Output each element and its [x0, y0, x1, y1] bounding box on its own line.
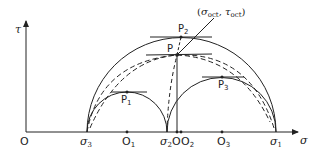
- diagram-canvas: [0, 0, 312, 152]
- origin-label: O: [20, 136, 29, 147]
- point-O1: [126, 131, 129, 134]
- P2-label: P2: [178, 24, 189, 36]
- point-O2: [180, 131, 183, 134]
- P1-label: P1: [121, 95, 132, 107]
- sigma-axis-label: σ: [300, 135, 308, 146]
- mohr-circle-diagram: τ σ O σ3 O1 σ2 O O2 O3 σ1 P P1 P2 P3 (σo…: [0, 0, 312, 152]
- sigma1-label: σ1: [270, 136, 282, 149]
- octahedral-stress-annotation: (σoct, τoct): [197, 7, 245, 19]
- O-label: O: [172, 136, 181, 147]
- P3-label: P3: [218, 80, 229, 92]
- sigma3-label: σ3: [80, 136, 92, 149]
- point-O3: [221, 131, 224, 134]
- tangent-P: [146, 54, 212, 55]
- outer-circle: [87, 38, 276, 132]
- O1-label: O1: [122, 136, 135, 149]
- sigma2-label: σ2: [160, 136, 172, 149]
- P-label: P: [167, 44, 173, 54]
- O3-label: O3: [217, 136, 230, 149]
- point-O: [176, 131, 179, 134]
- tau-axis-label: τ: [15, 24, 21, 35]
- point-P: [175, 53, 179, 57]
- O2-label: O2: [181, 136, 194, 149]
